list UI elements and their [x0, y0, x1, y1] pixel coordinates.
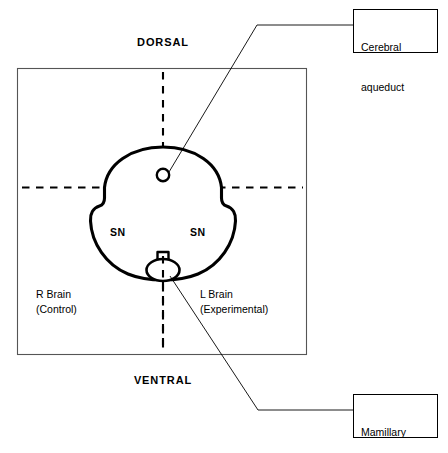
callout-cerebral-aqueduct: Cerebral aqueduct	[353, 9, 438, 53]
cerebral-aqueduct-shape	[157, 169, 169, 181]
substantia-nigra-right-label: SN	[110, 226, 125, 238]
callout-mamillary-body-line1: Mamillary	[361, 426, 430, 439]
right-brain-label-line2: (Control)	[36, 303, 77, 315]
ventral-label: VENTRAL	[113, 374, 213, 387]
left-brain-label-line1: L Brain	[200, 288, 233, 300]
left-brain-label-line2: (Experimental)	[200, 303, 268, 315]
substantia-nigra-left-label: SN	[190, 226, 205, 238]
right-brain-label-line1: R Brain	[36, 288, 71, 300]
callout-mamillary-body: Mamillary body	[353, 394, 438, 438]
callout-cerebral-aqueduct-line2: aqueduct	[361, 81, 430, 94]
figure-canvas: DORSAL VENTRAL SN SN R Brain (Control) L…	[0, 0, 448, 453]
callout-cerebral-aqueduct-line1: Cerebral	[361, 41, 430, 54]
mamillary-body-leader-line	[170, 276, 353, 410]
dorsal-label: DORSAL	[113, 36, 213, 49]
